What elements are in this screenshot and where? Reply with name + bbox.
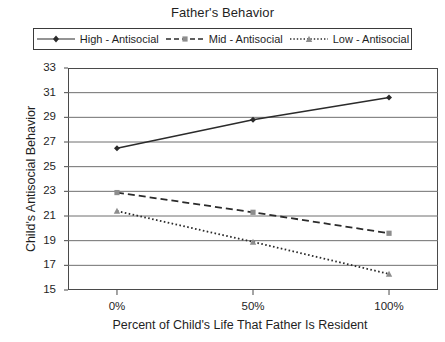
x-axis-tick-label: 0% — [87, 301, 147, 313]
chart-legend: High - Antisocial Mid - Antisocial Low -… — [33, 28, 412, 50]
legend-label-high-antisocial: High - Antisocial — [80, 33, 159, 45]
legend-item-high-antisocial: High - Antisocial — [36, 33, 159, 45]
legend-label-mid-antisocial: Mid - Antisocial — [209, 33, 283, 45]
x-axis-tick-label: 100% — [359, 301, 419, 313]
legend-label-low-antisocial: Low - Antisocial — [333, 33, 409, 45]
chart-title: Father's Behavior — [0, 5, 445, 20]
legend-marker-dotted-triangle-icon — [289, 33, 329, 45]
legend-marker-solid-diamond-icon — [36, 33, 76, 45]
x-axis-tick-label: 50% — [223, 301, 283, 313]
chart-container: Father's Behavior High - Antisocial Mid … — [0, 0, 445, 342]
legend-marker-dashed-square-icon — [165, 33, 205, 45]
x-axis-title: Percent of Child's Life That Father Is R… — [40, 318, 440, 332]
y-axis-title: Child's Antisocial Behavior — [24, 64, 38, 294]
plot-area — [68, 68, 438, 290]
legend-item-mid-antisocial: Mid - Antisocial — [165, 33, 283, 45]
legend-item-low-antisocial: Low - Antisocial — [289, 33, 409, 45]
